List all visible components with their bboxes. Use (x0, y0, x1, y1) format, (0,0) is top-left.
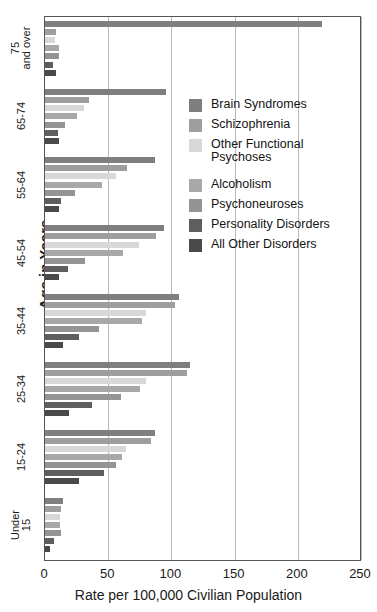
bar (45, 506, 61, 512)
bar-group (45, 430, 360, 487)
bar (45, 37, 55, 43)
bar (45, 242, 139, 248)
bar (45, 206, 59, 212)
legend-label: Other FunctionalPsychoses (211, 138, 303, 164)
y-category-label: Under 15 (10, 494, 34, 556)
legend-swatch-icon (189, 119, 202, 132)
bar (45, 53, 59, 59)
bar (45, 530, 61, 536)
x-tick-label: 150 (214, 566, 254, 581)
legend-item: Personality Disorders (189, 218, 359, 233)
legend-swatch-icon (189, 139, 202, 152)
bar (45, 394, 121, 400)
bar (45, 326, 99, 332)
bar (45, 21, 322, 27)
bar (45, 138, 59, 144)
bar (45, 274, 59, 280)
bar (45, 522, 60, 528)
bar (45, 454, 122, 460)
bar (45, 258, 85, 264)
bar (45, 370, 187, 376)
chart-legend: Brain SyndromesSchizophreniaOther Functi… (189, 98, 359, 258)
y-category-label: 55-64 (16, 154, 28, 216)
bar (45, 310, 146, 316)
legend-item: Brain Syndromes (189, 98, 359, 113)
chart-figure: Age in Years 050100150200250 Rate per 10… (0, 0, 377, 612)
bar-group (45, 362, 360, 419)
bar (45, 430, 155, 436)
legend-item: All Other Disorders (189, 238, 359, 253)
legend-label: Personality Disorders (211, 218, 330, 231)
x-tick-label: 0 (24, 566, 64, 581)
x-tick-label: 50 (87, 566, 127, 581)
legend-label: Schizophrenia (211, 118, 290, 131)
bar (45, 478, 79, 484)
bar (45, 157, 155, 163)
bar (45, 334, 79, 340)
x-axis-title: Rate per 100,000 Civilian Population (0, 587, 377, 603)
bar (45, 302, 175, 308)
legend-swatch-icon (189, 219, 202, 232)
bar (45, 546, 50, 552)
bar (45, 498, 63, 504)
bar (45, 89, 166, 95)
x-tick-label: 200 (277, 566, 317, 581)
bar (45, 198, 61, 204)
legend-label: Alcoholism (211, 178, 271, 191)
bar (45, 29, 56, 35)
legend-swatch-icon (189, 239, 202, 252)
bar-group (45, 21, 360, 78)
y-category-label: 45-54 (16, 222, 28, 284)
x-tick-label: 100 (150, 566, 190, 581)
bar (45, 410, 69, 416)
y-category-label: 15-24 (16, 426, 28, 488)
legend-label: Psychoneuroses (211, 198, 303, 211)
bar (45, 130, 58, 136)
bar (45, 470, 104, 476)
bar (45, 362, 190, 368)
legend-item: Other FunctionalPsychoses (189, 138, 359, 164)
bar (45, 173, 116, 179)
y-category-label: 65-74 (16, 85, 28, 147)
bar (45, 294, 179, 300)
bar (45, 165, 127, 171)
bar (45, 318, 142, 324)
bar (45, 514, 60, 520)
y-category-label: 35-44 (16, 290, 28, 352)
bar (45, 62, 53, 68)
bar (45, 462, 116, 468)
bar (45, 97, 89, 103)
bar-group (45, 498, 360, 555)
bar (45, 113, 77, 119)
legend-label: All Other Disorders (211, 238, 317, 251)
legend-item: Psychoneuroses (189, 198, 359, 213)
bar (45, 122, 65, 128)
bar (45, 182, 102, 188)
bar (45, 446, 126, 452)
legend-item: Schizophrenia (189, 118, 359, 133)
gridline-250 (361, 17, 362, 560)
y-category-label: 75 and over (10, 17, 34, 79)
bar (45, 250, 123, 256)
bar (45, 538, 54, 544)
bar (45, 190, 75, 196)
bar (45, 438, 151, 444)
legend-item: Alcoholism (189, 178, 359, 193)
legend-swatch-icon (189, 179, 202, 192)
bar (45, 342, 63, 348)
bar (45, 378, 146, 384)
bar (45, 70, 56, 76)
x-tick-label: 250 (340, 566, 377, 581)
y-category-label: 25-34 (16, 358, 28, 420)
bar-group (45, 294, 360, 351)
legend-swatch-icon (189, 199, 202, 212)
bar (45, 45, 59, 51)
bar (45, 105, 84, 111)
legend-swatch-icon (189, 99, 202, 112)
bar (45, 402, 92, 408)
bar (45, 225, 164, 231)
bar (45, 386, 140, 392)
bar (45, 266, 68, 272)
legend-label: Brain Syndromes (211, 98, 307, 111)
bar (45, 233, 156, 239)
